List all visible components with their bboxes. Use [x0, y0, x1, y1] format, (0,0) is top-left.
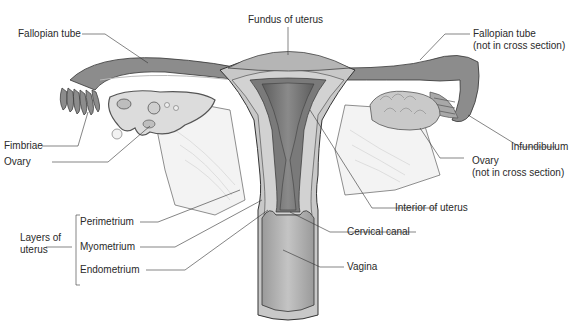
right-ovary [370, 91, 440, 130]
label-fallopian-tube-right-note: (not in cross section) [473, 40, 565, 52]
label-interior-of-uterus: Interior of uterus [395, 202, 468, 214]
label-layers-of-uterus-2: uterus [20, 244, 48, 256]
label-cervical-canal: Cervical canal [347, 226, 410, 238]
label-layers-of-uterus: Layers of [20, 232, 61, 244]
vagina [262, 211, 314, 312]
label-ovary-right: Ovary [472, 155, 499, 167]
label-perimetrium: Perimetrium [80, 216, 134, 228]
label-myometrium: Myometrium [80, 241, 135, 253]
label-ovary-right-note: (not in cross section) [472, 167, 564, 179]
label-fallopian-tube-left: Fallopian tube [18, 28, 81, 40]
label-endometrium: Endometrium [80, 264, 139, 276]
label-infundibulum: Infundibulum [511, 141, 568, 153]
fimbriae [60, 88, 99, 115]
label-ovary-left: Ovary [4, 156, 31, 168]
label-fundus-of-uterus: Fundus of uterus [248, 14, 323, 26]
label-fallopian-tube-right: Fallopian tube [473, 28, 536, 40]
label-fimbriae: Fimbriae [4, 140, 43, 152]
label-vagina: Vagina [347, 261, 377, 273]
